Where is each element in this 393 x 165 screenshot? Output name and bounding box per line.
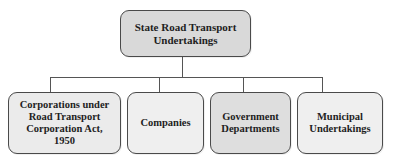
root-stem-connector: [182, 57, 183, 78]
child-4-connector: [322, 77, 323, 92]
child-2-connector: [159, 77, 160, 92]
child-node-municipal-undertakings: Municipal Undertakings: [297, 92, 383, 154]
child-node-government-departments: Government Departments: [210, 92, 291, 154]
root-node-state-road-transport-undertakings: State Road Transport Undertakings: [120, 10, 251, 57]
org-chart-diagram: State Road Transport Undertakings Corpor…: [0, 0, 393, 165]
child-node-label: Government Departments: [221, 111, 279, 135]
child-node-corporations: Corporations under Road Transport Corpor…: [8, 92, 121, 154]
child-node-companies: Companies: [127, 92, 204, 154]
child-node-label: Corporations under Road Transport Corpor…: [20, 99, 110, 147]
child-node-label: Companies: [140, 117, 190, 129]
horizontal-bus-connector: [50, 77, 323, 78]
child-1-connector: [50, 77, 51, 92]
child-3-connector: [243, 77, 244, 92]
child-node-label: Municipal Undertakings: [309, 111, 370, 135]
root-node-label: State Road Transport Undertakings: [135, 21, 237, 47]
